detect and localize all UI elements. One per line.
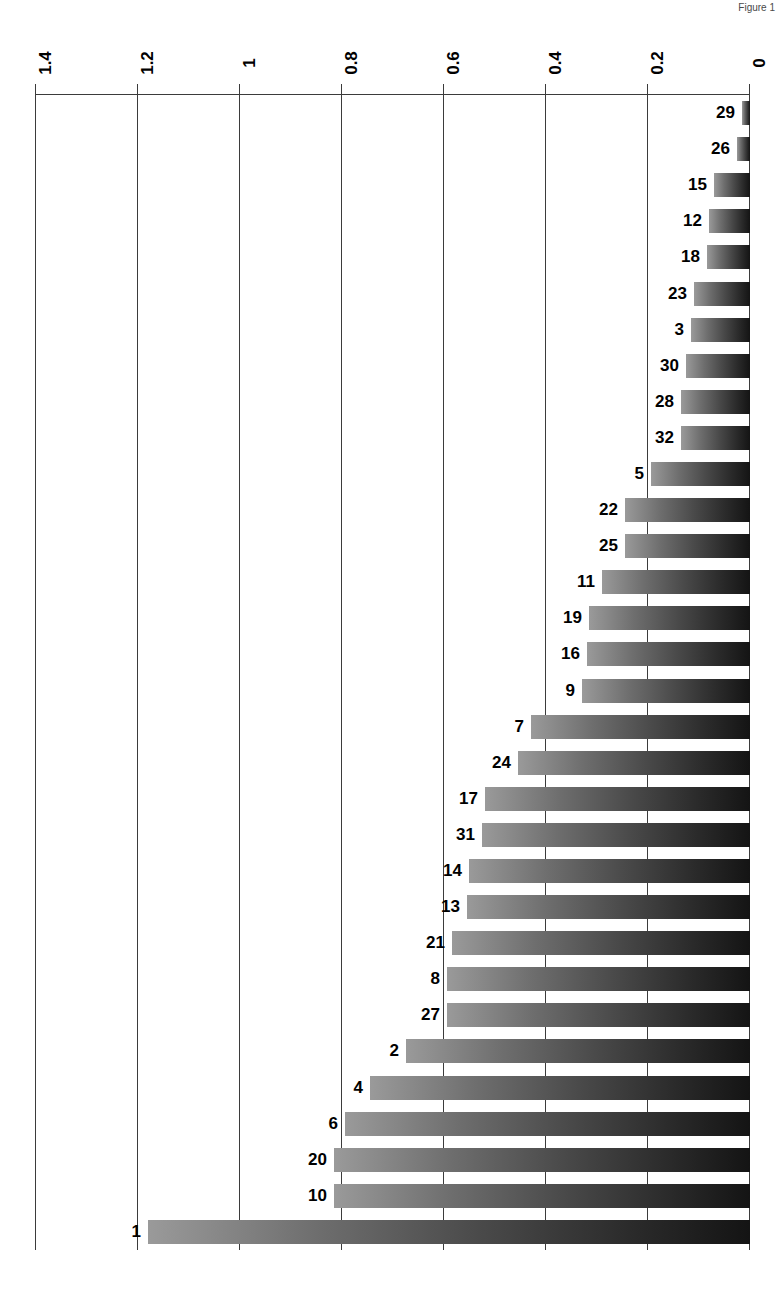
- bar-value-label: 13: [441, 897, 460, 917]
- bar[interactable]: [602, 570, 750, 594]
- bar-row: 13: [36, 895, 750, 919]
- bar-row: 20: [36, 1148, 750, 1172]
- bar[interactable]: [625, 498, 750, 522]
- bar-row: 5: [36, 462, 750, 486]
- bar-row: 30: [36, 354, 750, 378]
- bar[interactable]: [651, 462, 750, 486]
- bar[interactable]: [582, 679, 750, 703]
- bar-value-label: 22: [599, 500, 618, 520]
- bar-value-label: 25: [599, 536, 618, 556]
- bar-row: 4: [36, 1076, 750, 1100]
- axis-tick-label: 0.6: [444, 43, 464, 83]
- bar-row: 28: [36, 390, 750, 414]
- bar-row: 8: [36, 967, 750, 991]
- bar[interactable]: [587, 642, 750, 666]
- bar[interactable]: [334, 1184, 750, 1208]
- bar[interactable]: [681, 426, 750, 450]
- bar-row: 18: [36, 245, 750, 269]
- bar-row: 1: [36, 1220, 750, 1244]
- bar-value-label: 31: [456, 825, 475, 845]
- value-axis-line: [36, 94, 750, 95]
- bar[interactable]: [681, 390, 750, 414]
- bar[interactable]: [485, 787, 750, 811]
- bar-value-label: 23: [668, 284, 687, 304]
- bar-row: 16: [36, 642, 750, 666]
- axis-tick-label: 1.4: [36, 43, 56, 83]
- bar[interactable]: [694, 282, 750, 306]
- bar[interactable]: [714, 173, 750, 197]
- bar[interactable]: [737, 137, 750, 161]
- plot-area: 00.20.40.60.811.21.411020642278211314311…: [36, 95, 750, 1250]
- bar[interactable]: [148, 1220, 750, 1244]
- bar-row: 9: [36, 679, 750, 703]
- bar-value-label: 15: [688, 175, 707, 195]
- bar[interactable]: [447, 1003, 750, 1027]
- bar-row: 10: [36, 1184, 750, 1208]
- bar-row: 12: [36, 209, 750, 233]
- bar[interactable]: [589, 606, 750, 630]
- bar-row: 26: [36, 137, 750, 161]
- bar[interactable]: [452, 931, 750, 955]
- bar-value-label: 11: [577, 572, 595, 592]
- bar-row: 21: [36, 931, 750, 955]
- rotated-chart-stage: 00.20.40.60.811.21.411020642278211314311…: [0, 0, 781, 1296]
- bar-chart: 00.20.40.60.811.21.411020642278211314311…: [36, 45, 750, 1250]
- bar-value-label: 18: [681, 247, 700, 267]
- bar-row: 31: [36, 823, 750, 847]
- bar-value-label: 5: [634, 464, 643, 484]
- bar-value-label: 6: [328, 1114, 337, 1134]
- bar-value-label: 16: [561, 644, 580, 664]
- bar-value-label: 21: [426, 933, 445, 953]
- bar-value-label: 19: [563, 608, 582, 628]
- bar-row: 14: [36, 859, 750, 883]
- bar-value-label: 4: [354, 1078, 363, 1098]
- bar-value-label: 1: [132, 1222, 141, 1242]
- bar-value-label: 2: [389, 1041, 398, 1061]
- bar-value-label: 7: [514, 717, 523, 737]
- bar[interactable]: [345, 1112, 750, 1136]
- bar-value-label: 32: [655, 428, 674, 448]
- bar-value-label: 8: [430, 969, 439, 989]
- bar-value-label: 9: [565, 681, 574, 701]
- bar-value-label: 30: [660, 356, 679, 376]
- bar-value-label: 29: [716, 103, 735, 123]
- bar[interactable]: [686, 354, 750, 378]
- bar[interactable]: [707, 245, 750, 269]
- bar-row: 6: [36, 1112, 750, 1136]
- bar-value-label: 28: [655, 392, 674, 412]
- bar[interactable]: [531, 715, 750, 739]
- bar-value-label: 10: [308, 1186, 327, 1206]
- bar-value-label: 26: [711, 139, 730, 159]
- axis-tick-label: 1.2: [138, 43, 158, 83]
- bar-value-label: 12: [683, 211, 702, 231]
- bar[interactable]: [467, 895, 750, 919]
- bar[interactable]: [518, 751, 750, 775]
- bar[interactable]: [470, 859, 751, 883]
- bar-row: 32: [36, 426, 750, 450]
- bar[interactable]: [709, 209, 750, 233]
- bar[interactable]: [691, 318, 750, 342]
- bar-value-label: 3: [675, 320, 684, 340]
- bar[interactable]: [742, 101, 750, 125]
- bar-row: 24: [36, 751, 750, 775]
- bar-row: 19: [36, 606, 750, 630]
- bar-row: 11: [36, 570, 750, 594]
- axis-tick-label: 0.4: [546, 43, 566, 83]
- bar-row: 7: [36, 715, 750, 739]
- bar-row: 25: [36, 534, 750, 558]
- bar-value-label: 17: [459, 789, 478, 809]
- bar[interactable]: [334, 1148, 750, 1172]
- bar[interactable]: [447, 967, 750, 991]
- bar[interactable]: [406, 1039, 750, 1063]
- bar[interactable]: [625, 534, 750, 558]
- bar-row: 27: [36, 1003, 750, 1027]
- bar-row: 2: [36, 1039, 750, 1063]
- axis-tick-label: 0.8: [342, 43, 362, 83]
- bar[interactable]: [370, 1076, 750, 1100]
- figure-caption: Figure 1: [738, 2, 775, 13]
- bar[interactable]: [482, 823, 750, 847]
- axis-tick-label: 1: [240, 43, 260, 83]
- bar-value-label: 27: [421, 1005, 440, 1025]
- bar-value-label: 14: [444, 861, 463, 881]
- bar-row: 29: [36, 101, 750, 125]
